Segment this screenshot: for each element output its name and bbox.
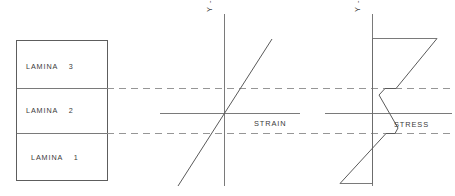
strain-distribution-line [178, 39, 272, 186]
strain-plot: Y - POSITION STRAIN [160, 0, 300, 186]
strain-x-axis-label: STRAIN [254, 119, 287, 128]
laminate-stack: LAMINA 3 LAMINA 2 LAMINA 1 [17, 41, 108, 181]
stress-plot: Y - POSITION STRESS [325, 0, 452, 186]
stress-y-axis-label: Y - POSITION [353, 0, 362, 12]
lamina-2-label: LAMINA 2 [26, 106, 74, 115]
laminate-stress-strain-figure: LAMINA 3 LAMINA 2 LAMINA 1 Y - POSITION [0, 0, 455, 196]
lamina-3-label: LAMINA 3 [26, 62, 74, 71]
stress-distribution-curve [340, 39, 437, 184]
stress-x-axis-label: STRESS [394, 120, 429, 129]
figure-canvas: LAMINA 3 LAMINA 2 LAMINA 1 Y - POSITION [0, 0, 455, 196]
lamina-1-label: LAMINA 1 [31, 153, 79, 162]
strain-y-axis-label: Y - POSITION [205, 0, 214, 12]
